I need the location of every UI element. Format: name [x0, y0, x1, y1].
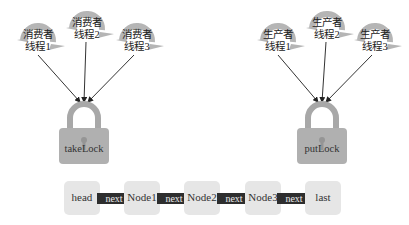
- node-last: last: [305, 181, 341, 215]
- thread-label-line2: 线程3: [114, 41, 160, 53]
- node-2: Node2: [184, 181, 220, 215]
- lock-label: takeLock: [56, 143, 112, 154]
- node-3: Node3: [245, 181, 281, 215]
- take-lock: takeLock: [56, 100, 112, 166]
- producer-thread-1: 生产者 线程1: [255, 20, 301, 60]
- consumer-thread-2: 消费者 线程2: [64, 8, 110, 48]
- padlock-icon: [56, 100, 112, 166]
- thread-label-line2: 线程1: [255, 41, 301, 53]
- producer-thread-3: 生产者 线程3: [352, 20, 398, 60]
- thread-label-line1: 消费者: [114, 29, 160, 41]
- node-head: head: [64, 181, 100, 215]
- thread-label-line1: 消费者: [64, 17, 110, 29]
- lock-label: putLock: [294, 143, 350, 154]
- thread-label-line2: 线程3: [352, 41, 398, 53]
- node-1: Node1: [124, 181, 160, 215]
- thread-label-line2: 线程1: [15, 41, 61, 53]
- producer-thread-2: 生产者 线程2: [304, 8, 350, 48]
- thread-label-line1: 生产者: [304, 17, 350, 29]
- put-lock: putLock: [294, 100, 350, 166]
- thread-label-line1: 生产者: [255, 29, 301, 41]
- padlock-icon: [294, 100, 350, 166]
- consumer-thread-3: 消费者 线程3: [114, 20, 160, 60]
- thread-label-line2: 线程2: [304, 29, 350, 41]
- linked-blocking-queue-diagram: 消费者 线程1 消费者 线程2 消费者 线程3: [0, 0, 409, 225]
- thread-label-line1: 生产者: [352, 29, 398, 41]
- thread-label-line1: 消费者: [15, 29, 61, 41]
- thread-label-line2: 线程2: [64, 29, 110, 41]
- node-label: last: [295, 191, 351, 203]
- consumer-thread-1: 消费者 线程1: [15, 20, 61, 60]
